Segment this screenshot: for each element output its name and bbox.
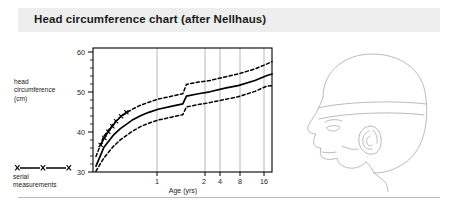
brow-line: [325, 120, 342, 122]
x-axis-label: Age (yrs): [169, 187, 197, 195]
head-circumference-chart: 60 50 40 30 1 2 4 8 16 Age (yrs): [0, 36, 290, 196]
ear-antihelix: [373, 130, 377, 143]
tape-measure-upper-edge: [318, 102, 426, 108]
ear-inner-helix: [363, 131, 372, 149]
ear-outline: [359, 126, 381, 154]
footer-divider: [18, 197, 440, 198]
x-tick-label-4: 4: [218, 177, 222, 186]
mouth-line: [322, 152, 336, 153]
plot-background: [93, 48, 272, 172]
infant-head-profile-illustration: [300, 42, 448, 192]
tape-measure-lower-edge: [319, 113, 424, 119]
eye-line: [326, 126, 340, 128]
cheek-line: [342, 146, 358, 149]
x-axis-ticks: [157, 172, 264, 176]
face-profile-outline: [308, 97, 366, 168]
y-tick-label-40: 40: [77, 128, 85, 137]
ear-concha: [367, 136, 372, 146]
y-tick-label-30: 30: [77, 168, 85, 177]
x-tick-label-8: 8: [238, 177, 242, 186]
x-tick-label-2: 2: [202, 177, 206, 186]
y-tick-label-50: 50: [77, 88, 85, 97]
neck-back-outline: [374, 173, 388, 192]
y-tick-label-60: 60: [77, 48, 85, 57]
chin-to-jaw-line: [366, 162, 374, 173]
x-tick-label-1: 1: [155, 177, 159, 186]
page-title: Head circumference chart (after Nellhaus…: [34, 13, 266, 25]
page-root: Head circumference chart (after Nellhaus…: [0, 0, 453, 208]
x-tick-label-16: 16: [260, 177, 268, 186]
chart-svg: 60 50 40 30 1 2 4 8 16 Age (yrs): [0, 36, 290, 196]
y-axis-major-ticks: [88, 52, 93, 172]
eyelid-line: [327, 128, 340, 131]
